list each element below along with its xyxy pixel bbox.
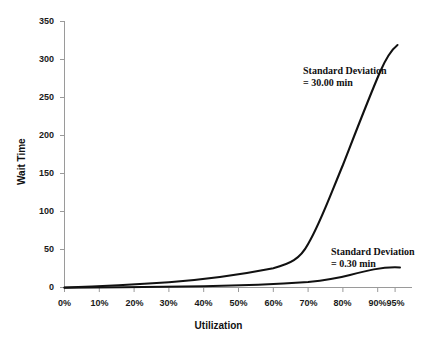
wait-time-utilization-chart: 350 300 250 200 150 100 50 0 0% 10% 20% … bbox=[0, 0, 437, 344]
x-tick-label-40: 40% bbox=[188, 298, 219, 308]
annotation-std-30min: Standard Deviation = 30.00 min bbox=[303, 65, 387, 89]
annotation-std-30min-line1: Standard Deviation bbox=[303, 65, 387, 76]
annotation-std-0-30min: Standard Deviation = 0.30 min bbox=[331, 246, 415, 270]
y-tick-label-100: 100 bbox=[24, 206, 54, 216]
y-tick-label-350: 350 bbox=[24, 16, 54, 26]
x-tick-label-70: 70% bbox=[293, 298, 324, 308]
y-tick-label-150: 150 bbox=[24, 168, 54, 178]
x-tick-label-50: 50% bbox=[223, 298, 254, 308]
annotation-std-30min-line2: = 30.00 min bbox=[303, 77, 387, 89]
y-axis-ticks bbox=[60, 22, 65, 288]
x-tick-label-10: 10% bbox=[84, 298, 115, 308]
y-tick-label-200: 200 bbox=[24, 130, 54, 140]
y-tick-label-250: 250 bbox=[24, 92, 54, 102]
x-tick-label-60: 60% bbox=[258, 298, 289, 308]
x-tick-label-95: 95% bbox=[380, 298, 411, 308]
annotation-std-0-30min-line1: Standard Deviation bbox=[331, 246, 415, 257]
annotation-std-0-30min-line2: = 0.30 min bbox=[331, 258, 415, 270]
x-tick-label-30: 30% bbox=[153, 298, 184, 308]
y-tick-label-50: 50 bbox=[24, 244, 54, 254]
x-tick-label-20: 20% bbox=[119, 298, 150, 308]
plot-area bbox=[0, 0, 437, 344]
x-axis-title: Utilization bbox=[0, 320, 437, 331]
y-tick-label-300: 300 bbox=[24, 54, 54, 64]
y-axis-title: Wait Time bbox=[16, 138, 27, 185]
x-tick-label-0: 0% bbox=[49, 298, 80, 308]
x-tick-label-80: 80% bbox=[327, 298, 358, 308]
y-tick-label-0: 0 bbox=[24, 282, 54, 292]
